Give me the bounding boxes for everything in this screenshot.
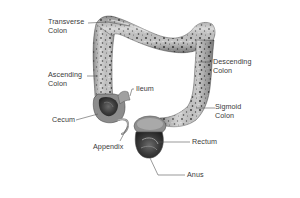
label-sigmoid-colon: Sigmoid Colon <box>215 103 241 120</box>
appendix <box>118 119 128 134</box>
label-ascending-colon: Ascending Colon <box>48 71 82 88</box>
descending-sigmoid-colon <box>160 40 214 127</box>
label-cecum: Cecum <box>52 116 75 125</box>
leader-ileum <box>130 89 134 96</box>
label-rectum: Rectum <box>192 138 217 147</box>
label-ileum: Ileum <box>136 85 154 94</box>
leader-cecum <box>76 114 98 120</box>
rectum <box>134 116 166 158</box>
label-appendix: Appendix <box>93 143 123 152</box>
colon-illustration <box>0 0 300 198</box>
label-anus: Anus <box>187 171 204 180</box>
colon-anatomy-diagram: Transverse Colon Ascending Colon Descend… <box>0 0 300 198</box>
label-transverse-colon: Transverse Colon <box>48 18 84 35</box>
label-descending-colon: Descending Colon <box>213 58 251 75</box>
leader-anus <box>150 158 185 175</box>
